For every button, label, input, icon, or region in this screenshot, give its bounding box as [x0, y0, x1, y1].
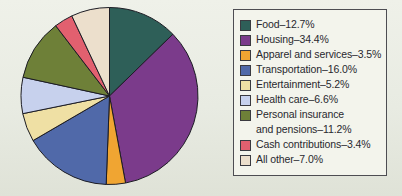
legend-label-personal-insurance: Personal insurance and pensions–11.2%: [256, 107, 352, 137]
legend-item-personal-insurance: Personal insurance and pensions–11.2%: [240, 107, 382, 137]
legend-swatch-all-other: [240, 155, 251, 166]
legend-item-cash-contributions: Cash contributions–3.4%: [240, 137, 382, 152]
legend-label-cash-contributions: Cash contributions–3.4%: [256, 137, 370, 152]
legend-swatch-entertainment: [240, 80, 251, 91]
legend-swatch-housing: [240, 35, 251, 46]
legend-swatch-personal-insurance: [240, 110, 251, 121]
legend-label-entertainment: Entertainment–5.2%: [256, 77, 349, 92]
legend-swatch-transportation: [240, 65, 251, 76]
legend-item-housing: Housing–34.4%: [240, 32, 382, 47]
legend-label-apparel: Apparel and services–3.5%: [256, 47, 381, 62]
legend-swatch-cash-contributions: [240, 140, 251, 151]
legend-item-all-other: All other–7.0%: [240, 152, 382, 167]
pie-chart: [0, 0, 230, 196]
legend-label-all-other: All other–7.0%: [256, 152, 323, 167]
legend-swatch-health-care: [240, 95, 251, 106]
legend-label-transportation: Transportation–16.0%: [256, 62, 357, 77]
legend-box: Food–12.7% Housing–34.4% Apparel and ser…: [233, 9, 387, 176]
legend-item-transportation: Transportation–16.0%: [240, 62, 382, 77]
pie-chart-figure: Food–12.7% Housing–34.4% Apparel and ser…: [0, 0, 402, 196]
legend-item-food: Food–12.7%: [240, 17, 382, 32]
legend-label-health-care: Health care–6.6%: [256, 92, 338, 107]
legend-item-apparel: Apparel and services–3.5%: [240, 47, 382, 62]
legend-swatch-food: [240, 20, 251, 31]
legend-item-health-care: Health care–6.6%: [240, 92, 382, 107]
legend-label-housing: Housing–34.4%: [256, 32, 329, 47]
legend-item-entertainment: Entertainment–5.2%: [240, 77, 382, 92]
legend-swatch-apparel: [240, 50, 251, 61]
legend-label-food: Food–12.7%: [256, 17, 315, 32]
